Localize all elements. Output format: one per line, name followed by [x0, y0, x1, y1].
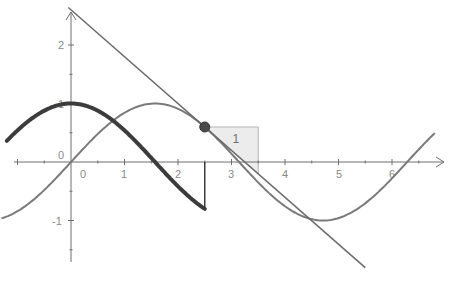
- y-axis: [66, 12, 76, 262]
- y-tick-label: -1: [52, 215, 62, 227]
- tangent-point[interactable]: [200, 122, 210, 132]
- x-tick-label: 3: [228, 168, 234, 180]
- tangent-line: [68, 7, 365, 267]
- slope-triangle-label: 1: [233, 132, 240, 146]
- y-tick-labels: 2 1 0 -1: [52, 39, 64, 227]
- x-tick-label: 4: [282, 168, 288, 180]
- function-plot: 1 0 1 2 3 4 5 6 2 1 0 -1: [0, 0, 450, 281]
- x-axis: [14, 157, 444, 167]
- x-tick-label: 5: [336, 168, 342, 180]
- origin-label: 0: [58, 149, 64, 161]
- x-tick-label: 2: [175, 168, 181, 180]
- y-tick-label: 2: [58, 39, 64, 51]
- x-tick-label: 1: [121, 168, 127, 180]
- x-tick-label: 0: [80, 168, 86, 180]
- x-tick-labels: 0 1 2 3 4 5 6: [80, 168, 395, 180]
- cos-curve: [7, 104, 205, 209]
